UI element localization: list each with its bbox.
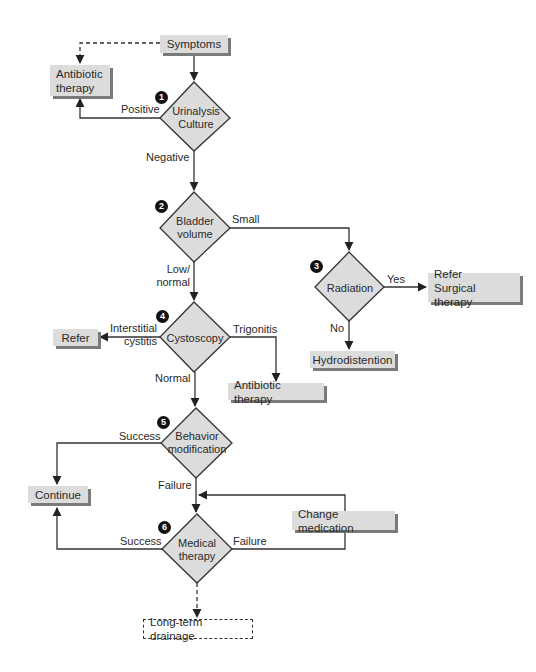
edge-symptoms-antibiotic — [80, 43, 160, 63]
step-badge-4: 4 — [156, 310, 169, 323]
decision-behavior-label: Behavior modification — [168, 430, 227, 456]
decision-label-line: Behavior — [168, 430, 227, 443]
edge-d2-small — [230, 228, 349, 250]
decision-cystoscopy-label: Cystoscopy — [167, 332, 224, 345]
box-long-term-drainage-label: Long-term drainage — [150, 615, 246, 643]
edge-d4-trigonitis — [230, 337, 276, 381]
decision-bladder-label: Bladder volume — [176, 215, 214, 241]
decision-label-line: Bladder — [176, 215, 214, 228]
decision-label-line: Medical — [178, 537, 216, 550]
edge-label-positive: Positive — [121, 103, 160, 116]
edge-d5-success — [57, 443, 161, 484]
edge-label-line: normal — [150, 276, 190, 289]
box-continue: Continue — [28, 486, 88, 503]
edge-label-no: No — [330, 322, 344, 335]
decision-label-line: Cystoscopy — [167, 332, 224, 345]
decision-label-line: Culture — [172, 118, 220, 131]
edge-label-line: Interstitial — [100, 322, 157, 335]
box-antibiotic-line2: therapy — [56, 81, 104, 95]
edge-label-interstitial-cystitis: Interstitial cystitis — [100, 322, 157, 348]
box-change-medication-label: Change medication — [298, 507, 389, 535]
box-refer-label: Refer — [61, 331, 89, 345]
box-continue-label: Continue — [35, 488, 81, 502]
edge-label-yes: Yes — [387, 273, 405, 286]
box-refer: Refer — [53, 329, 98, 346]
box-antibiotic-therapy-1: Antibiotic therapy — [50, 65, 110, 96]
box-refer-surgical-line1: Refer — [434, 267, 514, 281]
decision-label-line: Radiation — [327, 282, 373, 295]
box-refer-surgical-line2: Surgical therapy — [434, 281, 514, 309]
edge-label-line: cystitis — [100, 335, 157, 348]
edge-label-small: Small — [232, 213, 260, 226]
edge-label-trigonitis: Trigonitis — [233, 323, 277, 336]
box-refer-surgical: Refer Surgical therapy — [428, 273, 520, 302]
edge-label-low-normal: Low/ normal — [150, 263, 190, 289]
box-hydrodistention: Hydrodistention — [310, 351, 395, 368]
box-antibiotic-therapy-2: Antibiotic therapy — [228, 383, 324, 400]
step-badge-6: 6 — [158, 521, 171, 534]
edge-label-normal: Normal — [155, 372, 190, 385]
box-antibiotic-line1: Antibiotic — [56, 67, 104, 81]
decision-medical-label: Medical therapy — [178, 537, 216, 563]
box-long-term-drainage: Long-term drainage — [143, 619, 253, 639]
edge-label-failure-6: Failure — [233, 535, 267, 548]
step-badge-5: 5 — [157, 416, 170, 429]
box-antibiotic-2-label: Antibiotic therapy — [234, 378, 318, 406]
decision-radiation-label: Radiation — [327, 282, 373, 295]
box-symptoms-label: Symptoms — [167, 37, 221, 51]
box-hydrodistention-label: Hydrodistention — [313, 353, 393, 367]
edge-label-line: Low/ — [150, 263, 190, 276]
box-symptoms: Symptoms — [160, 35, 228, 53]
decision-label-line: Urinalysis — [172, 105, 220, 118]
step-badge-2: 2 — [155, 200, 168, 213]
edge-label-success-6: Success — [120, 535, 162, 548]
decision-urinalysis-label: Urinalysis Culture — [172, 105, 220, 131]
decision-label-line: volume — [176, 228, 214, 241]
step-badge-3: 3 — [310, 260, 323, 273]
edge-label-negative: Negative — [146, 151, 189, 164]
decision-label-line: modification — [168, 443, 227, 456]
edge-label-success-5: Success — [119, 430, 161, 443]
decision-label-line: therapy — [178, 550, 216, 563]
box-change-medication: Change medication — [292, 511, 395, 530]
edge-label-failure-5: Failure — [158, 479, 192, 492]
